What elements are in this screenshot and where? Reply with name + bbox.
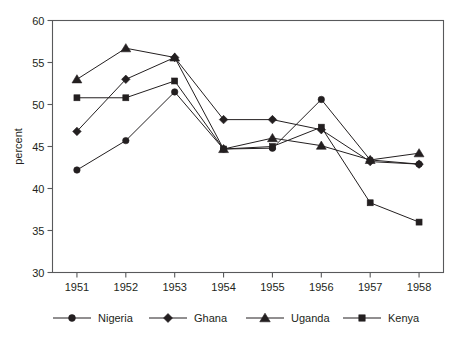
legend-label-uganda: Uganda	[291, 312, 330, 324]
legend-label-kenya: Kenya	[388, 312, 420, 324]
legend-label-nigeria: Nigeria	[98, 312, 134, 324]
x-tick-label-1956: 1956	[309, 281, 333, 293]
y-tick-label-40: 40	[32, 183, 44, 195]
line-chart: 3035404550556019511952195319541955195619…	[0, 0, 465, 341]
datapoint-kenya-1957	[367, 200, 373, 206]
datapoint-kenya-1956	[318, 124, 324, 130]
x-tick-label-1955: 1955	[260, 281, 284, 293]
legend-item-kenya[interactable]: Kenya	[343, 312, 420, 324]
legend-label-ghana: Ghana	[194, 312, 228, 324]
datapoint-nigeria-1956	[318, 96, 324, 102]
datapoint-kenya-1958	[416, 219, 422, 225]
plot-frame	[53, 21, 444, 273]
y-tick-label-45: 45	[32, 141, 44, 153]
y-tick-label-30: 30	[32, 267, 44, 279]
y-tick-label-35: 35	[32, 225, 44, 237]
x-tick-label-1952: 1952	[114, 281, 138, 293]
datapoint-kenya-1953	[172, 78, 178, 84]
datapoint-nigeria-1952	[123, 137, 129, 143]
y-tick-label-60: 60	[32, 15, 44, 27]
legend-marker-kenya	[359, 315, 365, 321]
x-tick-label-1957: 1957	[358, 281, 382, 293]
datapoint-kenya-1951	[74, 95, 80, 101]
x-tick-label-1954: 1954	[211, 281, 235, 293]
legend-marker-ghana	[164, 314, 173, 323]
y-tick-label-55: 55	[32, 57, 44, 69]
x-tick-label-1958: 1958	[407, 281, 431, 293]
y-tick-label-50: 50	[32, 99, 44, 111]
datapoint-kenya-1955	[269, 144, 275, 150]
x-tick-label-1953: 1953	[162, 281, 186, 293]
legend-item-ghana[interactable]: Ghana	[149, 312, 228, 324]
datapoint-nigeria-1951	[74, 167, 80, 173]
datapoint-uganda-1955	[268, 134, 278, 142]
series-line-uganda	[77, 48, 419, 160]
datapoint-uganda-1958	[414, 149, 424, 157]
legend-item-uganda[interactable]: Uganda	[246, 312, 330, 324]
legend-marker-uganda	[260, 313, 270, 322]
legend-marker-nigeria	[69, 315, 76, 322]
y-axis-title: percent	[12, 128, 24, 165]
chart-figure: 3035404550556019511952195319541955195619…	[0, 0, 465, 341]
datapoint-ghana-1958	[415, 160, 424, 169]
datapoint-uganda-1951	[72, 75, 82, 83]
datapoint-nigeria-1953	[171, 89, 177, 95]
datapoint-kenya-1954	[221, 146, 227, 152]
x-tick-label-1951: 1951	[65, 281, 89, 293]
datapoint-uganda-1952	[121, 44, 131, 52]
datapoint-ghana-1955	[268, 115, 277, 124]
legend-item-nigeria[interactable]: Nigeria	[53, 312, 134, 324]
datapoint-kenya-1952	[123, 95, 129, 101]
